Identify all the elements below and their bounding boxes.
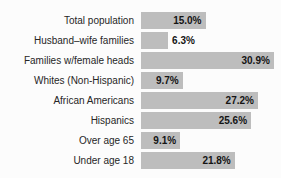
chart-row: Under age 1821.8% — [0, 150, 281, 170]
value-label: 30.9% — [242, 55, 274, 66]
bar-track: 6.3% — [141, 32, 281, 49]
bar: 25.6% — [141, 112, 251, 129]
value-label: 6.3% — [172, 35, 195, 46]
chart-row: Husband–wife families6.3% — [0, 30, 281, 50]
chart-title-text: Percentage Living in Poverty — [10, 4, 154, 6]
chart-row: Over age 659.1% — [0, 130, 281, 150]
chart-row: Whites (Non-Hispanic)9.7% — [0, 70, 281, 90]
chart-row: African Americans27.2% — [0, 90, 281, 110]
category-label: African Americans — [0, 95, 141, 106]
bar: 21.8% — [141, 152, 235, 169]
chart-row: Families w/female heads30.9% — [0, 50, 281, 70]
chart-row: Hispanics25.6% — [0, 110, 281, 130]
category-label: Husband–wife families — [0, 35, 141, 46]
bar: 9.1% — [141, 132, 180, 149]
category-label: Over age 65 — [0, 135, 141, 146]
bar: 9.7% — [141, 72, 183, 89]
value-label: 9.7% — [156, 75, 183, 86]
bar-chart: Total population15.0%Husband–wife famili… — [0, 6, 281, 170]
bar-track: 9.7% — [141, 72, 281, 89]
bar: 27.2% — [141, 92, 258, 109]
bar-track: 9.1% — [141, 132, 281, 149]
category-label: Under age 18 — [0, 155, 141, 166]
value-label: 9.1% — [153, 135, 180, 146]
value-label: 21.8% — [202, 155, 234, 166]
bar-track: 15.0% — [141, 12, 281, 29]
category-label: Total population — [0, 15, 141, 26]
bar-track: 27.2% — [141, 92, 281, 109]
bar-track: 25.6% — [141, 112, 281, 129]
category-label: Families w/female heads — [0, 55, 141, 66]
category-label: Hispanics — [0, 115, 141, 126]
bar: 30.9% — [141, 52, 274, 69]
bar — [141, 32, 168, 49]
category-label: Whites (Non-Hispanic) — [0, 75, 141, 86]
chart-row: Total population15.0% — [0, 10, 281, 30]
bar-track: 21.8% — [141, 152, 281, 169]
bar-track: 30.9% — [141, 52, 281, 69]
bar: 15.0% — [141, 12, 206, 29]
value-label: 27.2% — [226, 95, 258, 106]
value-label: 25.6% — [219, 115, 251, 126]
value-label: 15.0% — [173, 15, 205, 26]
